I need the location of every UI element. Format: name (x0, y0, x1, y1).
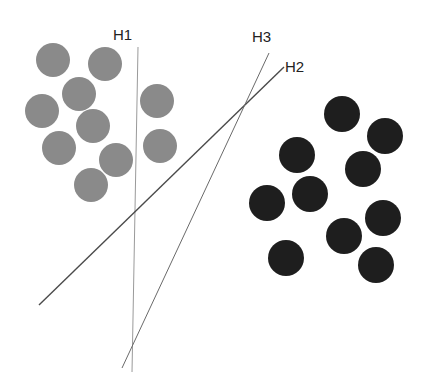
class-b-points (249, 96, 403, 283)
class-b-point (326, 218, 362, 254)
class-b-point (365, 200, 401, 236)
hyperplane-label-h2: H2 (285, 59, 304, 74)
class-a-point (99, 143, 133, 177)
class-b-point (324, 96, 360, 132)
class-a-point (42, 131, 76, 165)
class-b-point (358, 247, 394, 283)
class-a-point (74, 168, 108, 202)
class-a-point (88, 47, 122, 81)
hyperplane-label-h1: H1 (113, 27, 132, 42)
class-b-point (367, 118, 403, 154)
class-a-point (140, 84, 174, 118)
class-a-point (143, 129, 177, 163)
class-b-point (345, 151, 381, 187)
hyperplane-diagram (0, 0, 423, 389)
class-a-point (36, 43, 70, 77)
class-a-point (62, 77, 96, 111)
class-b-point (249, 185, 285, 221)
class-b-point (292, 176, 328, 212)
class-a-point (76, 109, 110, 143)
class-a-point (25, 94, 59, 128)
class-b-point (279, 137, 315, 173)
hyperplane-label-h3: H3 (252, 29, 271, 44)
class-a-points (25, 43, 177, 202)
class-b-point (268, 240, 304, 276)
